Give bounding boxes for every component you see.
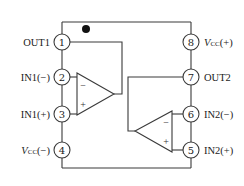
pin-5-label: IN2(+)	[204, 145, 234, 157]
pin-3: 3 IN1(+)	[21, 106, 70, 122]
opamp2-noninverting-sign: +	[163, 136, 169, 147]
pin-4: 4 VCC(−)	[21, 142, 70, 158]
pin-8-number: 8	[188, 37, 194, 48]
pin-7: 7 OUT2	[183, 69, 231, 85]
pin-3-number: 3	[59, 109, 65, 120]
pin-1: 1 OUT1	[23, 34, 70, 50]
pinout-diagram: − + − + 1 OUT1 2 IN1(−) 3 IN1(+) 4 VCC(−…	[0, 0, 244, 186]
pin-6-label: IN2(−)	[204, 109, 234, 121]
opamp-2: − +	[128, 77, 191, 152]
opamp-1: − +	[62, 42, 122, 115]
pin-2-number: 2	[59, 72, 65, 83]
pin-2-label: IN1(−)	[21, 72, 51, 84]
pin-4-label: VCC(−)	[21, 145, 50, 157]
opamp2-inverting-sign: −	[163, 117, 169, 128]
pin-6-number: 6	[188, 109, 194, 120]
pin-6: 6 IN2(−)	[183, 106, 234, 122]
pin-5: 5 IN2(+)	[183, 142, 234, 158]
pin-7-label: OUT2	[204, 72, 231, 83]
pin-4-number: 4	[59, 145, 65, 156]
pin-1-number: 1	[59, 37, 65, 48]
pin-3-label: IN1(+)	[21, 109, 51, 121]
pin1-orientation-dot	[82, 25, 90, 33]
pin-8-label: VCC(+)	[204, 37, 233, 49]
opamp1-inverting-sign: −	[80, 80, 86, 91]
pin-8: 8 VCC(+)	[183, 34, 233, 50]
pin-7-number: 7	[188, 72, 194, 83]
pin-2: 2 IN1(−)	[21, 69, 70, 85]
pin-1-label: OUT1	[23, 37, 50, 48]
pin-5-number: 5	[188, 145, 194, 156]
opamp1-noninverting-sign: +	[80, 99, 86, 110]
